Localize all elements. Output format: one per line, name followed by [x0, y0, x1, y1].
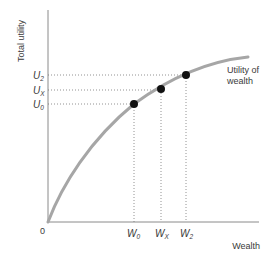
y-label-ux: UX	[33, 85, 45, 97]
utility-of-wealth-diagram: Total utility U2 UX U0 0 W0 WX W2 Wealth…	[0, 0, 275, 270]
curve-label-line1: Utility of	[227, 65, 260, 75]
guide-lines	[48, 75, 186, 222]
y-label-u2: U2	[33, 70, 44, 82]
x-label-wx: WX	[155, 228, 169, 240]
point-wx	[157, 85, 165, 93]
y-label-u0: U0	[33, 99, 44, 111]
x-label-w2: W2	[180, 228, 193, 240]
y-axis-title: Total utility	[16, 19, 26, 62]
point-w2	[182, 71, 190, 79]
utility-curve	[48, 57, 248, 222]
x-axis-title: Wealth	[232, 241, 260, 251]
x-label-w0: W0	[127, 228, 140, 240]
point-w0	[130, 100, 138, 108]
curve-label-line2: wealth	[226, 76, 253, 86]
origin-label: 0	[40, 226, 45, 236]
